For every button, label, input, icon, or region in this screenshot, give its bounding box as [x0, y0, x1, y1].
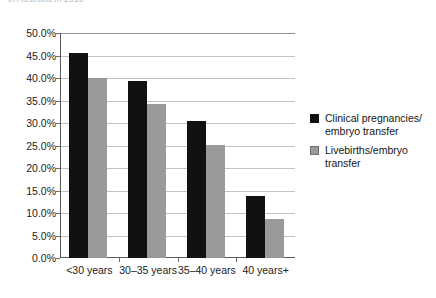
x-axis-tick-mark [178, 258, 179, 262]
bar-chart: 0.0%5.0%10.0%15.0%20.0%25.0%30.0%35.0%40… [0, 0, 436, 298]
legend-item[interactable]: Clinical pregnancies/embryo transfer [310, 112, 434, 137]
legend-item[interactable]: Livebirths/embryotransfer [310, 144, 434, 169]
bar [69, 53, 88, 258]
x-axis-tick-mark [236, 258, 237, 262]
bar [206, 145, 225, 258]
bar [265, 219, 284, 258]
legend-label: Clinical pregnancies/ [325, 112, 434, 125]
legend-swatch-icon [310, 114, 319, 123]
x-axis-tick-label: 40 years+ [228, 264, 303, 277]
y-axis-ticks [0, 33, 60, 258]
bar [88, 78, 107, 258]
bar-group-container [61, 33, 294, 258]
legend-label: embryo transfer [325, 125, 434, 138]
x-axis-tick-mark [119, 258, 120, 262]
legend-label: transfer [325, 157, 434, 170]
bar [187, 121, 206, 258]
legend-swatch-icon [310, 146, 319, 155]
bar [128, 81, 147, 258]
bar [246, 196, 265, 258]
legend-label: Livebirths/embryo [325, 144, 434, 157]
x-axis-labels: <30 years30–35 years35–40 years40 years+ [60, 264, 295, 280]
chart-legend: Clinical pregnancies/embryo transferLive… [310, 112, 434, 176]
bar [147, 104, 166, 258]
